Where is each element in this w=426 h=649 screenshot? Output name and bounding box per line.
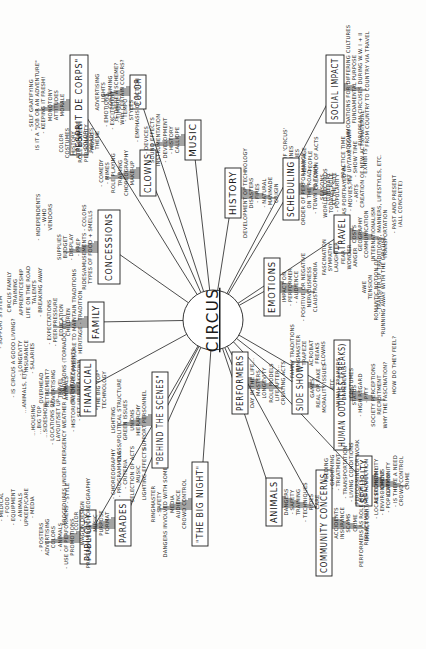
detail-text: MASTERS [255,370,261,396]
detail-text: SOUND EFFECTS [149,117,155,163]
detail-text: AUDIENCE [175,490,181,519]
detail-text: LIFE ON THE ROAD [25,266,31,318]
detail-text: EUROPEAN CIRCUSES DURING W.W. I + II [357,32,363,146]
detail-text: COSTUMES [348,368,354,399]
detail-text: - COLOR [73,511,79,534]
detail-text: MEDIA [169,495,175,513]
detail-text: - INSURANCE [23,340,29,376]
branch-label: HISTORY [228,171,238,215]
detail-text: - EQUIPMENT [10,488,16,525]
detail-text: CLOWNS [320,341,326,365]
detail-text: - EXCITEMENT [109,90,115,129]
detail-text: SELECTION OF ACTS [129,446,135,502]
detail-text: MAKE-UP [129,161,135,186]
detail-text: - LIVING CONDITIONS [348,442,354,501]
detail-text: - MEDIA [29,496,35,518]
branch-social-impact: ACCOMMODATIONS FOR DIFFERING CULTURESFUN… [326,25,370,153]
mind-map-svg: CIRCUS TYPES OF FOOD + SMELLSRIDES/AMUSE… [0,0,426,649]
detail-text: ANGER [352,247,358,267]
detail-text: HERITAGE - TRADITION [77,290,83,353]
detail-text: - TOWN TO TOWN [312,164,318,213]
detail-text: - MIMES [104,162,110,184]
detail-text: LIGHTING EFFECTS [141,448,147,500]
detail-text: TALENTS [31,280,37,305]
branch-label: PARADES [118,503,128,543]
detail-text: - IS CIRCUS A GOOD LIVING? [10,318,16,397]
detail-text: LIGHTING [110,407,116,434]
detail-text: MORALE [59,94,65,117]
branch-label: PERFORMERS [235,355,245,411]
detail-text: RECRUITMENT [376,375,382,415]
branch-label: "THE BIG NIGHT" [195,465,205,543]
detail-text: MORALITY ISSUES [321,363,327,412]
detail-text: CARE [314,495,320,510]
detail-text: - POSITIVE OR NEGATIVE [300,253,306,321]
detail-text: - LOCAL ECONOMY [373,467,379,519]
detail-text: VENDORS [47,203,53,230]
detail-text: SCAMS [345,513,351,532]
detail-text: - SAFETY [289,489,295,514]
detail-text: ROMANTIC NOTION OF... [373,253,379,320]
detail-text: - FOOD [4,497,10,517]
detail-text: OVERHEAD [38,373,44,404]
detail-text: STYLES [128,100,134,120]
detail-text: THEME [94,130,100,150]
detail-text: BUDGET [62,235,68,259]
detail-text: - KEEPING IT FRESH! [40,77,46,134]
detail-text: ACROBAT [308,339,314,366]
detail-text: GREEN ISSUES [122,400,128,441]
detail-text: - TRANSPORTATION [342,445,348,498]
detail-text: AT THE SITE [331,172,337,205]
detail-text: UPKEEP/CARE [23,488,29,526]
detail-text: - HISTORY [168,126,174,154]
detail-text: ADVERTISING [50,369,56,406]
detail-text: LIFE AFTER... [274,365,280,401]
detail-text: COMMUNICATION [363,210,369,258]
detail-text: - TIMBRE [115,98,121,123]
detail-text: - GROOMING [329,454,335,489]
detail-text: RIDES/AMUSEMENTS - COLORS [81,204,87,290]
detail-text: SOCIETY PERCEPTIONS [370,363,376,426]
detail-text: - SALARIES [29,343,35,374]
detail-text: CALLIOPE [174,127,180,154]
branch-label: SCHEDULING [286,161,296,217]
detail-text: ATMOSPHERE [75,121,81,158]
detail-text: DEVELOPMENT OF TECHNOLOGY [242,147,248,237]
detail-text: ACCOMMODATIONS FOR DIFFERING CULTURES [345,25,351,153]
detail-text: - COMEDY [98,159,104,187]
detail-text: ATTITUDES [53,90,59,120]
detail-text: COLORS [50,526,56,549]
detail-text: LAUGHTER [333,242,339,272]
detail-text: (ALL CONCRETE) [397,181,403,227]
detail-text: - PREP [75,238,81,256]
detail-text: MUSIC [92,514,98,532]
detail-text: - TREATMENT [335,453,341,491]
detail-text: IS IT A "JOB OR AN ADVENTURE" [34,60,41,150]
detail-text: COLOR [58,133,64,152]
detail-text: INSURANCE [339,507,345,539]
detail-text: SUPPLIES [56,234,62,260]
detail-text: APPRENTICESHIP [18,269,24,316]
detail-text: INVENTORY [69,372,75,404]
detail-text: REPLACEMENT/REPRODUCTION [363,459,369,546]
detail-text: CLASS/POLITICAL STRUCTURE [116,379,122,462]
detail-text: - TEMPO [122,98,128,121]
detail-text: - POSTERS [38,522,44,551]
detail-text: - PAST AND PRESENT [391,174,397,233]
detail-text: CROWD CONTROL [398,456,404,506]
detail-text: ANIMALS [63,376,69,401]
detail-text: - PERFORMER [287,268,293,306]
branch-label: MUSIC [188,123,198,157]
detail-text: - FIRES [254,183,260,203]
detail-text: GAMES [309,378,315,398]
detail-text: - FAMILY TRADITIONS [289,324,295,382]
detail-text: - CRITERIA [122,459,128,489]
detail-text: CRIME [352,514,358,532]
branch-concessions: TYPES OF FOOD + SMELLSRIDES/AMUSEMENTS -… [35,194,120,290]
detail-text: DAREDEVILS [341,366,347,401]
detail-text: ORIGIN [273,183,279,203]
detail-text: TRAPEZE [301,341,307,367]
detail-text: DAY IN THE LIFE... [249,358,255,408]
detail-text: TENSION [367,275,373,301]
detail-text: - ENVIRONMENT [379,470,385,515]
